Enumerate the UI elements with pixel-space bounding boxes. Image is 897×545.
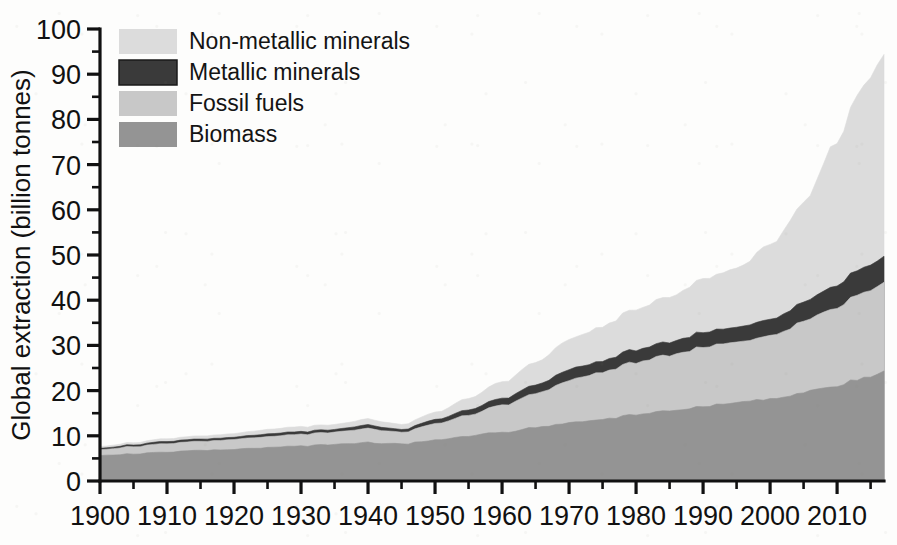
y-tick-label: 30 (51, 331, 81, 361)
y-tick-label: 80 (51, 105, 81, 135)
x-tick-label: 1990 (673, 501, 733, 531)
global-extraction-stacked-area-chart: 0102030405060708090100 19001910192019301… (0, 0, 897, 545)
y-tick-label: 20 (51, 377, 81, 407)
y-tick-label: 40 (51, 286, 81, 316)
legend-label: Fossil fuels (189, 90, 304, 116)
x-tick-label: 1950 (405, 501, 465, 531)
x-tick-label: 1900 (70, 501, 130, 531)
y-tick-label: 0 (66, 467, 81, 497)
x-tick-label: 1980 (606, 501, 666, 531)
y-tick-label: 90 (51, 60, 81, 90)
legend-swatch (119, 122, 177, 147)
legend-swatch (119, 91, 177, 116)
legend-label: Metallic minerals (189, 59, 360, 85)
y-tick-label: 10 (51, 422, 81, 452)
y-axis-label: Global extraction (billion tonnes) (6, 69, 36, 440)
chart-figure: 0102030405060708090100 19001910192019301… (0, 0, 897, 545)
x-tick-label: 2000 (740, 501, 800, 531)
x-tick-label: 1910 (137, 501, 197, 531)
legend-swatch (119, 29, 177, 54)
y-tick-label: 60 (51, 196, 81, 226)
y-tick-label: 50 (51, 241, 81, 271)
y-tick-label: 100 (36, 15, 81, 45)
legend-label: Non-metallic minerals (189, 28, 410, 54)
y-tick-label: 70 (51, 151, 81, 181)
x-tick-label: 1960 (472, 501, 532, 531)
x-tick-label: 1930 (271, 501, 331, 531)
x-tick-label: 2010 (807, 501, 867, 531)
x-tick-label: 1970 (539, 501, 599, 531)
x-tick-label: 1940 (338, 501, 398, 531)
legend-swatch (119, 60, 177, 85)
legend-label: Biomass (189, 121, 277, 147)
x-tick-label: 1920 (204, 501, 264, 531)
